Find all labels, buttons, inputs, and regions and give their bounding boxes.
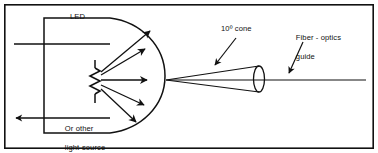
light-cone bbox=[166, 66, 265, 92]
light-source-label-line2: light-source bbox=[65, 143, 105, 152]
fiber-optics-guide-label: Fiber - optics guide bbox=[287, 24, 341, 70]
fiber-optics-guide-label-line2: guide bbox=[296, 52, 315, 61]
ray-down-far bbox=[101, 89, 136, 122]
light-source-label-line1: Or other bbox=[65, 124, 94, 133]
cone-leader bbox=[215, 38, 236, 65]
cone-angle-label: 10º cone bbox=[221, 24, 252, 33]
ray-up-far bbox=[101, 31, 150, 72]
fiber-optics-guide-label-line1: Fiber - optics bbox=[296, 33, 341, 42]
led-label: LED bbox=[70, 12, 85, 21]
light-source-label: Or other light-source bbox=[56, 115, 105, 153]
fiber-optic-led-diagram: LED Or other light-source 10º cone Fiber… bbox=[0, 0, 378, 153]
resistor-icon bbox=[90, 60, 100, 103]
